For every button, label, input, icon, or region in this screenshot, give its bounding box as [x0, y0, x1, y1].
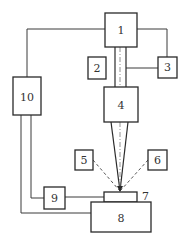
focused-beam-cone: [111, 122, 128, 192]
component-9-label: 9: [51, 192, 58, 205]
component-1: 1: [105, 13, 137, 47]
component-10-label: 10: [20, 91, 34, 104]
connection-10-to-9: [31, 115, 44, 198]
component-7-label: 7: [142, 190, 149, 203]
component-5: 5: [75, 150, 93, 170]
component-6-label: 6: [154, 154, 161, 167]
connection-1-to-3: [137, 29, 167, 57]
component-3: 3: [158, 57, 177, 78]
component-10: 10: [13, 77, 41, 115]
component-1-label: 1: [118, 24, 125, 37]
component-4: 4: [104, 87, 138, 122]
component-8-label: 8: [118, 212, 125, 225]
beam-tube: [115, 47, 126, 87]
sensor-6-line: [121, 160, 148, 190]
component-9: 9: [44, 187, 65, 209]
component-5-label: 5: [81, 154, 88, 167]
component-3-label: 3: [164, 61, 171, 74]
component-2: 2: [88, 57, 106, 79]
component-4-label: 4: [118, 99, 125, 112]
component-7: 7: [104, 190, 149, 203]
component-2-label: 2: [94, 62, 101, 75]
sensor-5-line: [93, 160, 119, 190]
block-diagram: 1 2 3 4 5 6 7 8: [0, 0, 184, 240]
component-8: 8: [91, 202, 151, 232]
component-6: 6: [148, 150, 167, 170]
